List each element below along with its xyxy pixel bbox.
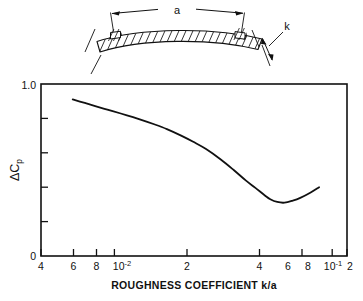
x-tick-label-7: 8 xyxy=(305,260,311,272)
x-tick-label-8: 10-1 xyxy=(324,259,342,272)
x-tick-label-9: 2 xyxy=(347,260,353,272)
y-axis-title: ΔCp xyxy=(8,159,24,181)
x-tick-label-6: 6 xyxy=(285,260,291,272)
x-tick-label-2: 8 xyxy=(94,260,100,272)
x-tick-label-3: 10-2 xyxy=(113,259,131,272)
left-break-lines xyxy=(85,29,101,74)
y-axis-title-subscript: p xyxy=(14,159,24,164)
span-label: a xyxy=(174,4,181,16)
schematic-diagram: a k xyxy=(85,4,290,75)
x-tick-label-0: 4 xyxy=(38,260,44,272)
x-tick-label-4: 2 xyxy=(184,260,190,272)
y-tick-label-top: 1.0 xyxy=(21,79,36,91)
technical-figure: a k 1.0 0 xyxy=(0,0,363,301)
figure-stage: a k 1.0 0 xyxy=(0,0,363,301)
x-tick-labels: 4 6 8 10-2 2 4 6 8 10-1 2 xyxy=(38,259,353,272)
plot-frame xyxy=(41,84,347,256)
y-tick-label-bottom: 0 xyxy=(30,250,36,262)
y-axis-title-delta: Δ xyxy=(8,173,22,181)
thickness-label: k xyxy=(284,20,290,32)
y-axis-title-symbol: C xyxy=(8,164,22,173)
svg-text:ΔCp: ΔCp xyxy=(8,159,24,181)
x-tick-label-5: 4 xyxy=(257,260,263,272)
x-tick-label-1: 6 xyxy=(71,260,77,272)
plot-area: 1.0 0 ΔCp 4 xyxy=(8,79,353,292)
thickness-dimension-line xyxy=(261,32,283,61)
x-axis-title: ROUGHNESS COEFFICIENT k/a xyxy=(111,279,277,291)
